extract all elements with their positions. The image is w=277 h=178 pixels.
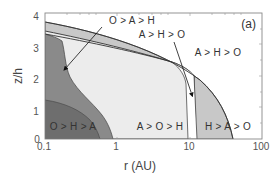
xtick-100: 100 bbox=[253, 141, 270, 152]
phase-diagram-chart: 4 3 2 1 0 z/h 0.1 1 10 100 r (AU) (a) A … bbox=[0, 0, 277, 178]
annotation-oah: O > A > H bbox=[109, 15, 155, 26]
ytick-3: 3 bbox=[33, 43, 39, 54]
label-region-hao: H > A > O bbox=[205, 121, 251, 132]
xtick-0.1: 0.1 bbox=[37, 141, 51, 152]
ytick-1: 1 bbox=[33, 106, 39, 117]
xtick-10: 10 bbox=[183, 141, 195, 152]
label-region-aoh: A > O > H bbox=[137, 121, 184, 132]
ytick-2: 2 bbox=[33, 74, 39, 85]
xtick-1: 1 bbox=[113, 141, 119, 152]
panel-label: (a) bbox=[241, 17, 256, 31]
y-axis: 4 3 2 1 0 z/h bbox=[11, 11, 40, 145]
x-axis-title: r (AU) bbox=[124, 159, 156, 173]
label-region-aho: A > H > O bbox=[195, 47, 242, 58]
x-axis: 0.1 1 10 100 r (AU) bbox=[37, 141, 270, 173]
y-axis-title: z/h bbox=[11, 68, 25, 84]
annotation-aho: A > H > O bbox=[139, 29, 186, 40]
label-region-oha: O > H > A bbox=[50, 121, 97, 132]
ytick-4: 4 bbox=[33, 11, 39, 22]
